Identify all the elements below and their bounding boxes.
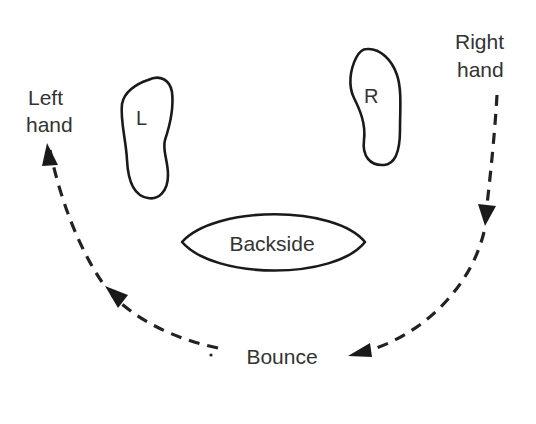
ball-pass-diagram: Left hand Right hand L R Backside Bounce xyxy=(0,0,536,424)
right-footprint-icon xyxy=(350,49,400,165)
left-hand-label-line2: hand xyxy=(26,113,73,136)
right-hand-label-line2: hand xyxy=(457,58,504,81)
arrowhead-up-icon xyxy=(42,143,58,166)
right-hand-label: Right hand xyxy=(455,30,504,81)
right-hand-label-line1: Right xyxy=(455,30,504,53)
arrowhead-down-icon xyxy=(478,204,496,226)
dot-mark xyxy=(209,353,212,356)
left-hand-label: Left hand xyxy=(26,86,73,136)
right-foot: R xyxy=(350,49,400,165)
backside-label: Backside xyxy=(229,232,314,255)
bounce-label: Bounce xyxy=(246,345,317,368)
dashed-path xyxy=(370,232,484,350)
dashed-path xyxy=(487,95,497,205)
right-foot-label: R xyxy=(364,85,378,107)
left-foot: L xyxy=(122,78,173,199)
dashed-path xyxy=(50,150,102,282)
dashed-path xyxy=(112,295,218,348)
right-hand-to-bounce-arrow xyxy=(348,95,497,357)
arrowhead-left-icon xyxy=(348,343,372,357)
backside: Backside xyxy=(182,214,365,270)
left-foot-label: L xyxy=(136,107,147,129)
left-footprint-icon xyxy=(122,78,173,199)
left-hand-label-line1: Left xyxy=(28,86,63,109)
